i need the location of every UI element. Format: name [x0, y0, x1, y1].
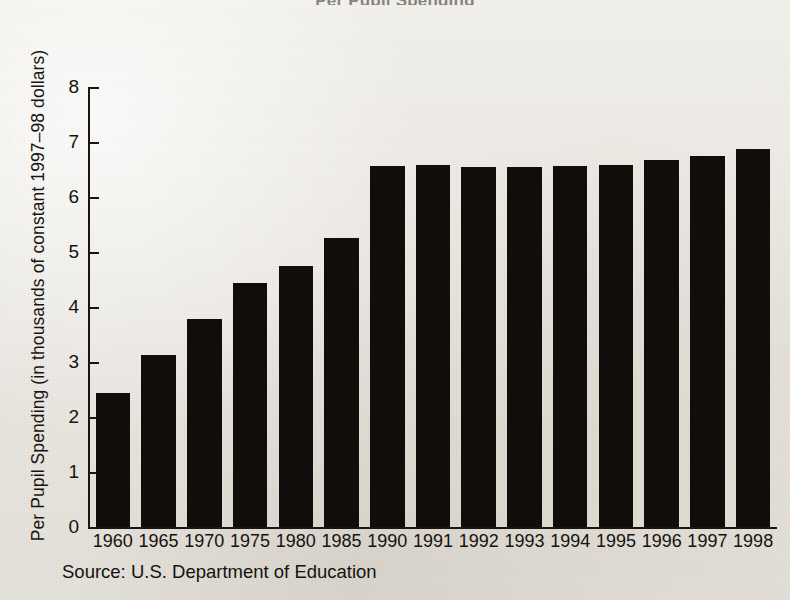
x-axis-tick-label-1996: 1996 [642, 531, 682, 552]
x-axis-tick-label-1998: 1998 [733, 531, 773, 552]
bar-1975 [233, 283, 268, 527]
bar-1965 [141, 355, 176, 527]
bar-1970 [187, 319, 222, 527]
x-axis-tick-label-1993: 1993 [504, 531, 544, 552]
x-axis-tick-label-1994: 1994 [550, 531, 590, 552]
bar-1960 [96, 393, 131, 527]
x-axis-tick-label-1980: 1980 [276, 531, 316, 552]
y-axis-tick-mark [90, 527, 99, 529]
y-axis-tick-label: 5 [68, 241, 79, 263]
bar-1996 [644, 160, 679, 527]
bar-1980 [279, 266, 314, 527]
x-axis-line [88, 527, 777, 529]
bar-1991 [416, 165, 451, 527]
bar-series [90, 87, 776, 527]
bar-1995 [599, 165, 634, 527]
bar-1994 [553, 166, 588, 527]
x-axis-tick-label-1995: 1995 [596, 531, 636, 552]
x-axis-tick-label-1992: 1992 [459, 531, 499, 552]
y-axis-tick-label: 4 [68, 296, 79, 318]
bar-1998 [736, 149, 771, 527]
x-axis-tick-label-1960: 1960 [93, 531, 133, 552]
plot-area: 012345678 [88, 87, 776, 527]
y-axis-tick-label: 2 [68, 406, 79, 428]
y-axis-label: Per Pupil Spending (in thousands of cons… [28, 46, 49, 546]
x-axis-tick-label-1985: 1985 [322, 531, 362, 552]
bar-1993 [507, 167, 542, 527]
x-axis-tick-label-1997: 1997 [687, 531, 727, 552]
y-axis-tick-label: 7 [68, 131, 79, 153]
bar-1985 [324, 238, 359, 527]
x-axis-tick-label-1991: 1991 [413, 531, 453, 552]
bar-1992 [461, 167, 496, 527]
bar-1997 [690, 156, 725, 527]
source-note: Source: U.S. Department of Education [62, 561, 377, 583]
figure-page: Per Pupil Spending Per Pupil Spending (i… [0, 0, 790, 600]
y-axis-tick-label: 0 [68, 516, 79, 538]
x-axis-tick-label-1970: 1970 [184, 531, 224, 552]
y-axis-tick-label: 1 [68, 461, 79, 483]
y-axis-tick-label: 6 [68, 186, 79, 208]
y-axis-tick-label: 8 [68, 76, 79, 98]
chart-title-clipped: Per Pupil Spending [0, 0, 790, 5]
x-axis-tick-labels: 1960196519701975198019851990199119921993… [88, 531, 778, 557]
bar-1990 [370, 166, 405, 527]
y-axis-tick-label: 3 [68, 351, 79, 373]
x-axis-tick-label-1965: 1965 [139, 531, 179, 552]
x-axis-tick-label-1990: 1990 [367, 531, 407, 552]
x-axis-tick-label-1975: 1975 [230, 531, 270, 552]
